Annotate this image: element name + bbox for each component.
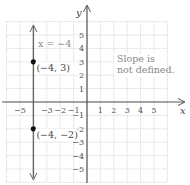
y-tick-label: −5 — [72, 165, 84, 174]
y-tick-label: 2 — [79, 71, 84, 80]
x-tick-label: −3 — [41, 106, 53, 115]
coordinate-plane: −5−3−2−11234554321−1−2−3−4−5 (−4, 3)(−4,… — [0, 0, 190, 185]
axes — [2, 5, 185, 183]
x-tick-label: 1 — [98, 106, 103, 115]
point-label: (−4, 3) — [36, 62, 70, 73]
y-axis-label: y — [75, 7, 82, 18]
data-point — [31, 126, 36, 131]
y-tick-label: −4 — [72, 152, 84, 161]
x-tick-label: −2 — [54, 106, 66, 115]
y-tick-label: 4 — [79, 44, 84, 53]
x-tick-label: −5 — [14, 106, 26, 115]
y-tick-label: −1 — [72, 111, 84, 120]
note-line-2: not defined. — [117, 64, 175, 75]
x-tick-label: 3 — [125, 106, 130, 115]
y-tick-label: 1 — [79, 85, 84, 94]
x-tick-label: 4 — [138, 106, 143, 115]
note-line-1: Slope is — [117, 53, 155, 64]
x-axis-label: x — [180, 105, 186, 116]
x-tick-label: 5 — [151, 106, 156, 115]
y-tick-label: 5 — [79, 31, 84, 40]
equation-label: x = −4 — [38, 38, 71, 49]
x-tick-label: 2 — [111, 106, 116, 115]
y-tick-label: 3 — [79, 58, 84, 67]
point-label: (−4, −2) — [36, 129, 77, 140]
data-points: (−4, 3)(−4, −2) — [31, 59, 78, 141]
data-point — [31, 59, 36, 64]
